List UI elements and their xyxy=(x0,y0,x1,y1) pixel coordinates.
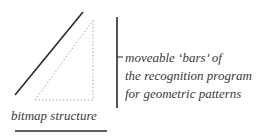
caption-line-1: moveable ‘bars’ of xyxy=(125,50,222,65)
caption-line-2: the recognition program xyxy=(125,68,252,83)
bitmap-structure-label: bitmap structure xyxy=(11,108,97,123)
diagonal-bar xyxy=(15,12,83,95)
caption-line-3: for geometric patterns xyxy=(125,86,241,101)
